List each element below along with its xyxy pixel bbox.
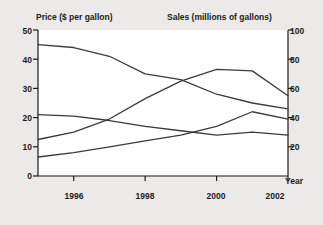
plot-area [0,0,323,225]
price-sales-line-chart: Price ($ per gallon) Sales (millions of … [0,0,323,225]
